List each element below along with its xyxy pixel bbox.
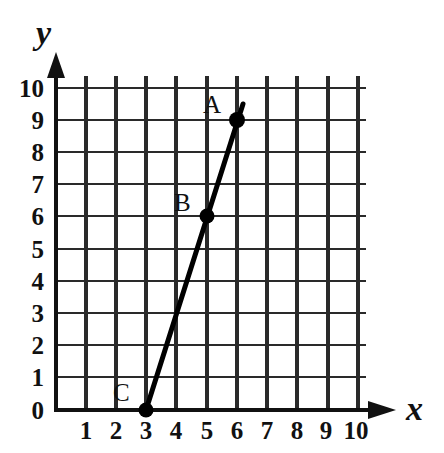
y-tick-label-1: 1 (8, 365, 44, 390)
y-tick-label-4: 4 (8, 269, 44, 294)
y-axis (47, 52, 65, 410)
vertical-gridlines (86, 76, 358, 410)
point-label-b: B (174, 190, 191, 215)
point-label-a: A (203, 92, 221, 117)
x-axis-label: x (406, 392, 423, 426)
data-point-c (139, 403, 154, 418)
y-tick-label-3: 3 (8, 301, 44, 326)
point-label-c: C (113, 380, 130, 405)
data-point-a (229, 112, 245, 128)
y-tick-label-9: 9 (8, 108, 44, 133)
coordinate-plane-figure: y x 0 1 2 3 4 5 6 7 8 9 10 1 2 3 4 5 6 7… (0, 0, 444, 453)
origin-tick-label: 0 (8, 398, 44, 423)
y-tick-label-7: 7 (8, 172, 44, 197)
y-axis-label: y (36, 16, 51, 50)
x-tick-label-10: 10 (332, 418, 380, 443)
y-tick-label-8: 8 (8, 140, 44, 165)
plot-canvas (0, 0, 444, 453)
y-tick-label-6: 6 (8, 204, 44, 229)
y-tick-label-5: 5 (8, 237, 44, 262)
data-point-b (200, 209, 215, 224)
y-tick-label-2: 2 (8, 333, 44, 358)
data-line (146, 104, 243, 410)
y-tick-label-10: 10 (0, 76, 44, 101)
horizontal-gridlines (55, 88, 366, 377)
